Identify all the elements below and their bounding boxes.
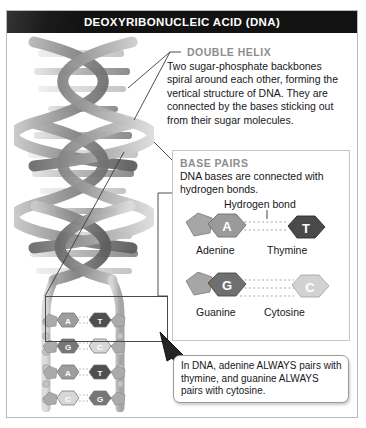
svg-text:C: C bbox=[65, 395, 71, 404]
svg-text:G: G bbox=[222, 278, 232, 293]
pair-guanine-cytosine: G C bbox=[184, 272, 350, 306]
caption-adenine: Adenine bbox=[196, 244, 235, 256]
helix-svg: ATGCATCGTA bbox=[14, 36, 154, 412]
ladder-rung: AT bbox=[43, 365, 125, 379]
double-helix-body: Two sugar-phosphate backbones spiral aro… bbox=[167, 60, 347, 127]
page-title: DEOXYRIBONUCLEIC ACID (DNA) bbox=[7, 11, 357, 33]
title-bar: DEOXYRIBONUCLEIC ACID (DNA) bbox=[7, 11, 357, 33]
dna-helix-illustration: ATGCATCGTA bbox=[14, 36, 154, 412]
caption-guanine: Guanine bbox=[196, 306, 236, 318]
dna-diagram-page: DEOXYRIBONUCLEIC ACID (DNA) bbox=[0, 0, 366, 428]
ladder-rung: CG bbox=[43, 391, 125, 405]
double-helix-heading: DOUBLE HELIX bbox=[187, 46, 271, 58]
svg-text:T: T bbox=[98, 369, 103, 378]
caption-thymine: Thymine bbox=[267, 244, 307, 256]
zoom-selection-rectangle[interactable] bbox=[45, 296, 168, 342]
svg-text:C: C bbox=[305, 280, 315, 295]
svg-text:C: C bbox=[97, 343, 103, 352]
svg-text:A: A bbox=[65, 369, 71, 378]
base-pairs-heading: BASE PAIRS bbox=[180, 157, 248, 169]
pair-adenine-thymine: A T bbox=[184, 210, 350, 244]
svg-text:A: A bbox=[222, 219, 232, 234]
svg-text:G: G bbox=[65, 343, 71, 352]
svg-text:T: T bbox=[302, 221, 310, 236]
svg-text:G: G bbox=[97, 395, 103, 404]
hydrogen-bond-label: Hydrogen bond bbox=[224, 198, 296, 210]
helix-ribbons bbox=[14, 42, 152, 280]
base-pairs-body: DNA bases are connected with hydrogen bo… bbox=[180, 170, 343, 197]
caption-cytosine: Cytosine bbox=[264, 306, 305, 318]
callout-text: In DNA, adenine ALWAYS pairs with thymin… bbox=[181, 360, 343, 398]
